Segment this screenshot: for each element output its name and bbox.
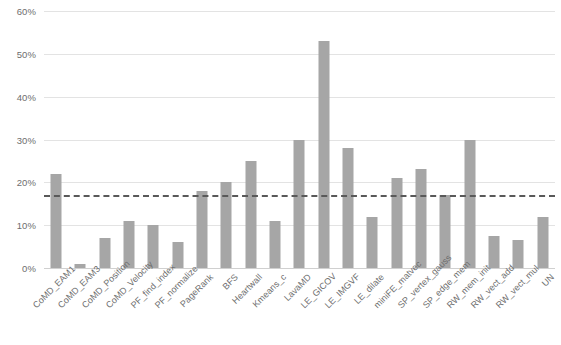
bar-slot	[312, 11, 336, 268]
x-axis: CoMD_EAM1CoMD_EAM3CoMD_PositionCoMD_Velo…	[44, 268, 555, 345]
bar[interactable]	[489, 236, 500, 268]
bar[interactable]	[172, 242, 183, 268]
bar-slot	[68, 11, 92, 268]
bar-slot	[336, 11, 360, 268]
y-axis-tick-label: 60%	[17, 6, 36, 17]
bar-slot	[44, 11, 68, 268]
bar[interactable]	[294, 140, 305, 269]
bar[interactable]	[367, 217, 378, 268]
bar-slot	[482, 11, 506, 268]
bar[interactable]	[197, 191, 208, 268]
y-axis: 0%10%20%30%40%50%60%	[0, 0, 42, 268]
y-axis-tick-label: 20%	[17, 177, 36, 188]
bar-chart: 0%10%20%30%40%50%60% CoMD_EAM1CoMD_EAM3C…	[0, 0, 561, 345]
bar-slot	[117, 11, 141, 268]
bar-slot	[141, 11, 165, 268]
bar[interactable]	[51, 174, 62, 268]
reference-line	[44, 195, 555, 197]
bar-slot	[190, 11, 214, 268]
bar-slot	[385, 11, 409, 268]
bar[interactable]	[318, 41, 329, 268]
bar-slot	[166, 11, 190, 268]
bar[interactable]	[245, 161, 256, 268]
y-axis-tick-label: 0%	[22, 263, 36, 274]
bar-slot	[506, 11, 530, 268]
bar[interactable]	[464, 140, 475, 269]
bar-slot	[409, 11, 433, 268]
bar-slot	[287, 11, 311, 268]
bar-slot	[531, 11, 555, 268]
bar-slot	[263, 11, 287, 268]
bar[interactable]	[537, 217, 548, 268]
plot-area	[44, 11, 555, 268]
bar[interactable]	[513, 240, 524, 268]
bar-slot	[214, 11, 238, 268]
bar-slot	[458, 11, 482, 268]
bar-slot	[360, 11, 384, 268]
y-axis-tick-label: 50%	[17, 48, 36, 59]
bar[interactable]	[391, 178, 402, 268]
y-axis-tick-label: 30%	[17, 134, 36, 145]
y-axis-tick-label: 10%	[17, 220, 36, 231]
bar[interactable]	[270, 221, 281, 268]
bar[interactable]	[99, 238, 110, 268]
y-axis-tick-label: 40%	[17, 91, 36, 102]
bar-slot	[239, 11, 263, 268]
bars-layer	[44, 11, 555, 268]
bar-slot	[93, 11, 117, 268]
bar[interactable]	[416, 169, 427, 268]
bar[interactable]	[343, 148, 354, 268]
bar-slot	[433, 11, 457, 268]
